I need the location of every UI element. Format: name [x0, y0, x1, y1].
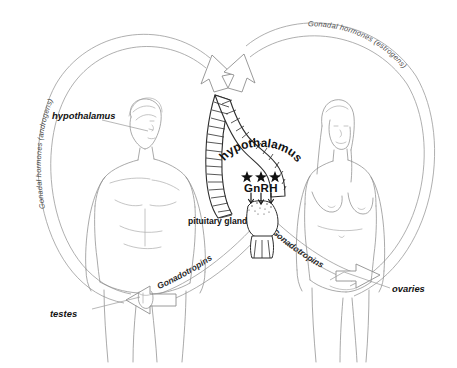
endocrine-axis-diagram: Gonadal hormones (androgens) Gonadal hor… [0, 0, 457, 368]
arc-label-gonadotropins-right: Gonadotropins [270, 227, 326, 270]
gonadotropin-arc-right: Gonadotropins [264, 218, 380, 288]
label-gnrh: GnRH [244, 182, 278, 194]
pituitary-gland [247, 201, 278, 258]
label-hypothalamus-male: hypothalamus [52, 110, 116, 121]
gonadotropin-arc-left: Gonadotropins [126, 222, 266, 314]
label-testes: testes [50, 308, 77, 319]
label-pituitary-gland: pituitary gland [188, 216, 247, 226]
female-figure [296, 100, 384, 362]
label-ovaries: ovaries [392, 283, 425, 294]
male-figure [86, 98, 206, 362]
leader-hypothalamus [102, 120, 148, 131]
diagram-canvas: Gonadal hormones (androgens) Gonadal hor… [0, 0, 457, 368]
